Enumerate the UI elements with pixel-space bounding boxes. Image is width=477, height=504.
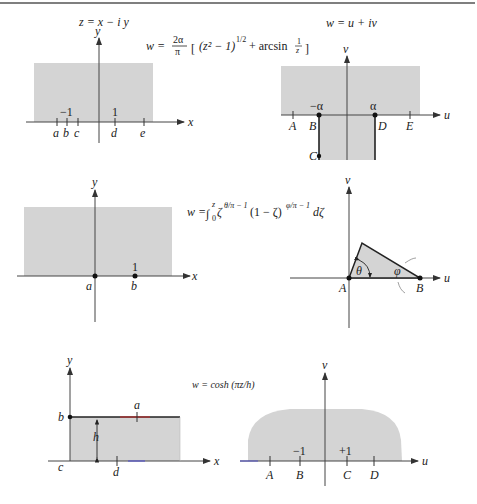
formula-body: (z² − 1) (199, 39, 235, 53)
point-C: C (309, 149, 318, 163)
tick-label-alpha: α (370, 99, 377, 113)
x-axis-label: x (187, 115, 194, 129)
zeta: ζ (217, 205, 223, 219)
upper-half-plane-region (34, 63, 153, 122)
integral-upper: z (211, 200, 216, 209)
point-A: A (338, 281, 347, 295)
upper-half-plane-region (24, 207, 172, 276)
frac-numerator: 1 (297, 37, 301, 46)
tick-label-pos-one: +1 (339, 444, 352, 458)
tick-label-one: 1 (132, 260, 138, 274)
panel-w-plane-2: v u θ φ A B (290, 173, 450, 328)
z-plane-title: z = x − i y (78, 15, 130, 29)
panel-w-plane-1: w = u + iv v u −α α A B C D E (281, 16, 450, 163)
exponent-phi: φ/π − 1 (286, 201, 310, 210)
tick-label-neg-one: −1 (293, 444, 306, 458)
u-axis-label: u (444, 108, 450, 122)
v-axis-label: v (343, 42, 349, 56)
point-b: b (63, 126, 69, 140)
point-e: e (140, 126, 146, 140)
left-bracket: [ (191, 42, 195, 56)
point-A: A (288, 119, 297, 133)
right-bracket: ] (305, 42, 309, 56)
strip-region (70, 417, 180, 461)
point-b: b (58, 410, 64, 424)
panel-z-plane-1: y x z = x − i y −1 1 a b c d e (26, 15, 194, 143)
x-axis-label: x (213, 454, 220, 468)
panel-w-plane-3: v u −1 +1 A B C D (240, 358, 428, 486)
shaded-region-upper (281, 66, 420, 115)
integral-sign: ∫ (205, 207, 210, 221)
formula-lhs: w = (146, 39, 165, 53)
point-B: B (416, 281, 424, 295)
point-D: D (369, 468, 379, 482)
tick-label-one: 1 (112, 105, 118, 119)
point-a: a (134, 398, 140, 412)
panel-z-plane-2: y x 1 a b (17, 175, 198, 322)
point-c: c (58, 460, 64, 474)
point-E: E (405, 119, 414, 133)
u-axis-label: u (422, 454, 428, 468)
y-axis-label: y (66, 353, 73, 367)
mapping-formula-2: w = ∫ z 0 ζ θ/π − 1 (1 − ζ) φ/π − 1 dζ (187, 200, 325, 223)
phi-pointer-lower (398, 282, 405, 293)
point-a: a (53, 126, 59, 140)
w-plane-title: w = u + iv (326, 16, 378, 30)
angle-phi: φ (394, 264, 401, 278)
integral-lower: 0 (212, 214, 216, 223)
y-axis-label: y (91, 175, 98, 189)
panel-z-strip: y x h a b c d (48, 353, 220, 479)
u-axis-label: u (444, 271, 450, 285)
point-B: B (309, 119, 317, 133)
coef-numerator: 2α (173, 34, 184, 45)
v-axis-label: v (345, 173, 351, 187)
formula-exponent: 1/2 (236, 35, 246, 44)
point-C: C (343, 468, 352, 482)
formula-lhs: w = (187, 205, 206, 219)
formula-plus-arcsin: + arcsin (249, 39, 287, 53)
point-B: B (296, 468, 304, 482)
tick-label-neg-alpha: −α (310, 99, 324, 113)
v-axis-label: v (322, 358, 328, 372)
frac-denominator: z (295, 46, 300, 55)
one-minus-zeta: (1 − ζ) (250, 205, 282, 219)
point-A: A (265, 468, 274, 482)
point-a: a (86, 279, 92, 293)
point-b: b (131, 279, 137, 293)
conformal-mapping-figure: y x z = x − i y −1 1 a b c d e w = 2α π … (0, 0, 477, 504)
height-label: h (93, 430, 99, 444)
point-d: d (113, 465, 120, 479)
phi-pointer-upper (405, 258, 416, 263)
exponent-theta: θ/π − 1 (224, 201, 248, 210)
d-zeta: dζ (313, 205, 325, 219)
coef-denominator: π (175, 46, 180, 57)
point-c: c (74, 126, 80, 140)
mapping-formula-1: w = 2α π [ (z² − 1) 1/2 + arcsin 1 z ] (146, 34, 309, 57)
point-D: D (377, 119, 387, 133)
point-d: d (111, 126, 118, 140)
x-axis-label: x (191, 269, 198, 283)
mapping-formula-3: w = cosh (πz/h) (192, 379, 255, 391)
angle-theta: θ (356, 264, 362, 278)
tick-label-neg-one: −1 (60, 105, 73, 119)
